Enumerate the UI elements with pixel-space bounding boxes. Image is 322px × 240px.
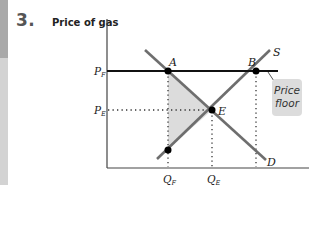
label-a: A	[168, 56, 177, 69]
price-floor-annotation-line1: Price	[272, 84, 302, 97]
label-demand: D	[266, 156, 276, 169]
label-pf-sub: F	[100, 71, 106, 79]
label-qe: QE	[207, 173, 221, 185]
price-floor-annotation: Price floor	[272, 79, 302, 116]
label-b: B	[247, 56, 256, 69]
label-pf: PF	[93, 65, 106, 79]
label-supply: S	[273, 46, 281, 59]
point-e	[209, 107, 216, 114]
label-pe: PE	[93, 104, 106, 118]
point-qf-supply	[165, 147, 172, 154]
price-floor-annotation-line2: floor	[272, 97, 302, 110]
label-qe-sub: E	[215, 179, 221, 185]
label-qf: QF	[163, 173, 177, 185]
label-e: E	[217, 105, 226, 118]
label-qf-sub: F	[171, 179, 177, 185]
label-pe-sub: E	[100, 110, 106, 118]
